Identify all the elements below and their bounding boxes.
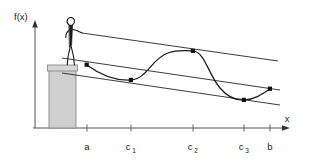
upper-tangent-line xyxy=(82,33,278,61)
x-axis-arrowhead xyxy=(282,125,290,131)
y-axis-arrowhead xyxy=(32,20,38,28)
tick-label-a: a xyxy=(84,141,90,152)
x-axis-label: x xyxy=(285,113,290,124)
point-b xyxy=(268,87,272,91)
stick-figure-person xyxy=(66,17,82,64)
point-c1 xyxy=(129,78,133,82)
figure-canvas: a c 1 c 2 c 3 b f(x) x xyxy=(0,0,310,165)
stick-figure-head xyxy=(67,17,74,25)
point-c3 xyxy=(242,98,246,102)
pedestal-cap xyxy=(48,65,78,71)
tick-label-c1: c xyxy=(126,141,131,152)
stick-figure-leg-right xyxy=(71,47,74,65)
stick-figure-torso xyxy=(69,25,72,47)
tick-label-b: b xyxy=(267,141,272,152)
tick-label-c2: c xyxy=(188,141,193,152)
mean-value-theorem-figure: a c 1 c 2 c 3 b f(x) x xyxy=(0,0,310,165)
secant-line xyxy=(62,58,280,90)
tick-label-c3: c xyxy=(239,141,244,152)
tick-label-c2-subscript: 2 xyxy=(194,147,198,154)
x-axis-tick-labels: a c 1 c 2 c 3 b xyxy=(84,141,272,154)
stick-figure-leg-left xyxy=(67,47,70,65)
stick-figure-arm-pointing xyxy=(71,29,82,33)
point-c2 xyxy=(191,49,195,53)
tick-label-c1-subscript: 1 xyxy=(132,147,136,154)
pedestal-body xyxy=(49,70,76,128)
tick-label-c3-subscript: 3 xyxy=(245,147,249,154)
point-a xyxy=(85,63,89,67)
parallel-lines-group xyxy=(62,33,280,105)
y-axis-label: f(x) xyxy=(14,11,28,22)
